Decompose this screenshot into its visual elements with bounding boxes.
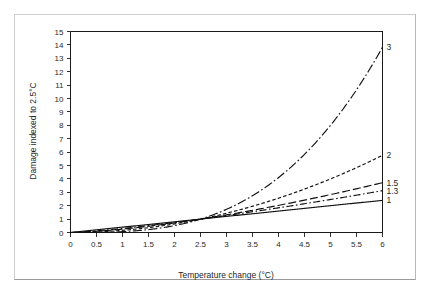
y-tick-label: 11 [55,81,64,90]
series-line-1 [71,200,383,232]
y-tick-label: 10 [55,95,64,104]
x-tick-label: 0.5 [91,240,103,249]
x-axis-tick-labels: 00.511.522.533.544.555.56 [68,240,385,249]
x-tick-label: 5.5 [351,240,363,249]
y-tick-label: 9 [59,108,64,117]
x-tick-label: 4.5 [299,240,311,249]
y-axis-tick-labels: 0123456789101112131415 [55,28,64,238]
series-label-2: 2 [387,150,392,160]
y-tick-label: 3 [59,188,64,197]
y-tick-label: 2 [59,202,64,211]
x-axis-ticks [71,233,383,237]
x-tick-label: 3 [224,240,229,249]
chart-area: 00.511.522.533.544.555.56 01234567891011… [0,0,431,296]
x-tick-label: 1.5 [143,240,155,249]
y-tick-label: 6 [59,148,64,157]
x-tick-label: 2.5 [195,240,207,249]
series-label-3: 3 [387,42,392,52]
series-end-labels: 11.31.523 [387,42,399,205]
y-tick-label: 12 [55,68,64,77]
plot-frame [71,32,383,233]
y-axis-title: Damage indexed to 2.5°C [28,82,38,179]
data-series-group [71,47,383,232]
x-tick-label: 6 [380,240,385,249]
series-label-1: 1 [387,195,392,205]
series-label-1-5: 1.5 [387,178,399,188]
series-line-1-3 [71,191,383,233]
y-tick-label: 15 [55,28,64,37]
y-tick-label: 0 [59,229,64,238]
x-tick-label: 2 [172,240,177,249]
x-tick-label: 5 [328,240,333,249]
series-line-1-5 [71,183,383,233]
y-tick-label: 14 [55,41,64,50]
x-tick-label: 4 [276,240,281,249]
y-tick-label: 4 [59,175,64,184]
x-axis-title: Temperature change (°C) [178,270,274,280]
damage-function-chart: 00.511.522.533.544.555.56 01234567891011… [0,0,431,296]
x-tick-label: 0 [68,240,73,249]
y-tick-label: 5 [59,162,64,171]
plot-axes-box [71,32,383,233]
y-axis-ticks [67,32,71,233]
y-tick-label: 8 [59,121,64,130]
y-tick-label: 7 [59,135,64,144]
y-tick-label: 1 [59,215,64,224]
y-tick-label: 13 [55,54,64,63]
x-tick-label: 1 [120,240,125,249]
x-tick-label: 3.5 [247,240,259,249]
